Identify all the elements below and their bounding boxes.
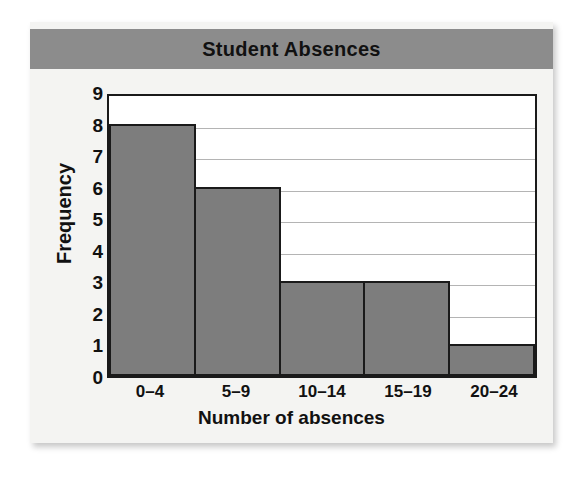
y-tick-label: 7 — [73, 146, 103, 168]
y-tick-label: 3 — [73, 272, 103, 294]
bar — [109, 124, 196, 376]
y-axis-tick-labels: 0123456789 — [73, 94, 103, 378]
y-tick-label: 8 — [73, 115, 103, 137]
x-tick-label: 10–14 — [279, 382, 365, 402]
y-tick-label: 2 — [73, 304, 103, 326]
x-tick-label: 20–24 — [451, 382, 537, 402]
y-tick-label: 0 — [73, 367, 103, 389]
bar — [279, 281, 366, 376]
x-axis-tick-labels: 0–45–910–1415–1920–24 — [107, 382, 537, 402]
bar — [448, 344, 535, 376]
chart-title: Student Absences — [202, 38, 381, 61]
y-tick-label: 4 — [73, 241, 103, 263]
y-tick-label: 1 — [73, 335, 103, 357]
bar — [194, 187, 281, 376]
chart-title-banner: Student Absences — [30, 29, 553, 69]
figure-card: Student Absences Frequency 0123456789 0–… — [30, 22, 553, 443]
bar — [363, 281, 450, 376]
x-tick-label: 5–9 — [193, 382, 279, 402]
y-tick-label: 6 — [73, 178, 103, 200]
y-tick-label: 5 — [73, 209, 103, 231]
x-tick-label: 15–19 — [365, 382, 451, 402]
x-axis-title: Number of absences — [30, 407, 553, 429]
bar-series — [109, 96, 535, 376]
x-tick-label: 0–4 — [107, 382, 193, 402]
plot-area — [107, 94, 537, 378]
y-tick-label: 9 — [73, 83, 103, 105]
